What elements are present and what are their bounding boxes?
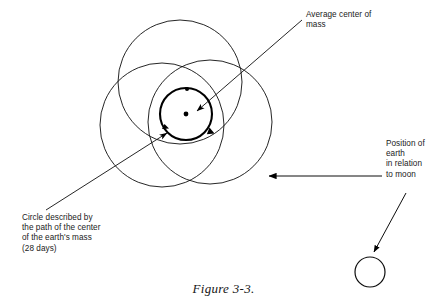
center-of-mass-dot [184, 112, 189, 117]
leader-line-average-center [197, 20, 302, 111]
label-position-of-earth: Position of earth in relation to moon [386, 139, 447, 180]
figure-caption: Figure 3-3. [0, 281, 447, 297]
large-circle-top [118, 20, 242, 144]
label-average-center-of-mass: Average center of mass [306, 10, 416, 30]
label-circle-described-by-path: Circle described by the path of the cent… [22, 213, 172, 254]
earth-marker-dot [185, 87, 189, 91]
orbit-diagram [0, 0, 447, 305]
arrow-to-moon [374, 193, 406, 252]
figure-page: Average center of mass Circle described … [0, 0, 447, 305]
leader-line-circle-described [46, 133, 167, 210]
